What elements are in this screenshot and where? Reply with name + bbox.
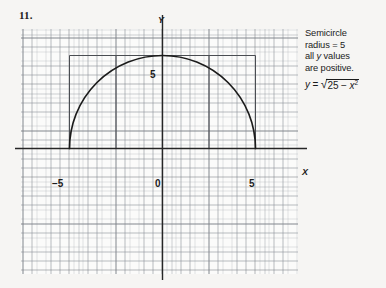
y-tick-label-five: 5 xyxy=(150,69,156,80)
origin-tick-label: 0 xyxy=(155,178,161,189)
problem-number: 11. xyxy=(19,9,33,21)
annotation-line-radius: radius = 5 xyxy=(305,40,383,52)
radicand-exponent: 2 xyxy=(354,79,358,86)
square-root-group: √ 25−x2 xyxy=(321,79,359,91)
annotation-all-prefix: all xyxy=(305,51,317,61)
annotation-line-are-positive: are positive. xyxy=(305,63,383,75)
annotation-block: Semicircle radius = 5 all y values are p… xyxy=(305,28,383,91)
x-tick-label-negative-five: −5 xyxy=(52,178,63,189)
x-axis-label: X xyxy=(302,167,308,177)
x-tick-label-positive-five: 5 xyxy=(249,178,255,189)
equation-expression: y = √ 25−x2 xyxy=(305,79,383,91)
annotation-line-all-y-values: all y values xyxy=(305,51,383,63)
annotation-line-semicircle: Semicircle xyxy=(305,28,383,40)
radicand-number: 25 xyxy=(327,80,338,91)
graph-svg xyxy=(21,29,298,274)
equation-lhs: y xyxy=(305,79,310,90)
annotation-values-suffix: values xyxy=(321,51,350,61)
equation-equals-sign: = xyxy=(313,79,319,90)
radicand-minus-sign: − xyxy=(341,80,347,91)
y-axis-label: Y xyxy=(158,15,164,25)
worksheet-page: 11. Y X −5 0 5 5 Semicircle radius = xyxy=(0,0,386,288)
graph-paper-plate xyxy=(21,29,298,274)
radicand: 25−x2 xyxy=(326,79,359,91)
